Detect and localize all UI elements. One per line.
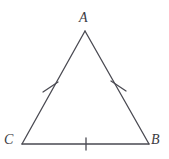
congruence-tick-marks xyxy=(43,81,126,150)
side-ab-line xyxy=(85,31,149,144)
vertex-label-a: A xyxy=(79,11,88,25)
congruence-tick-icon-ac xyxy=(43,82,58,92)
vertex-label-c: C xyxy=(4,133,13,147)
triangle-sides xyxy=(22,31,149,144)
vertex-label-b: B xyxy=(151,133,160,147)
side-ac-line xyxy=(22,31,85,144)
geometry-figure: A C B xyxy=(0,0,169,159)
